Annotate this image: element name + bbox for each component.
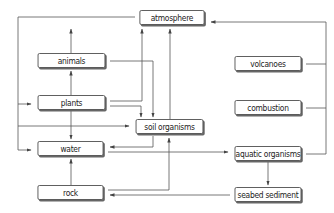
node-label: volcanoes (250, 58, 285, 69)
node-rock: rock (38, 185, 104, 200)
node-plants: plants (38, 95, 106, 110)
node-combustion: combustion (235, 100, 302, 115)
node-label: animals (58, 55, 86, 66)
node-label: soil organisms (144, 121, 194, 132)
node-water: water (38, 141, 104, 156)
carbon-cycle-diagram: atmosphere animals plants soil organisms… (0, 0, 334, 213)
node-aquatic-organisms: aquatic organisms (235, 146, 302, 161)
node-label: atmosphere (151, 12, 193, 23)
node-soil-organisms: soil organisms (136, 119, 204, 134)
node-animals: animals (38, 53, 106, 68)
node-atmosphere: atmosphere (139, 10, 204, 25)
node-label: rock (63, 187, 78, 198)
node-label: combustion (247, 102, 288, 113)
node-seabed-sediment: seabed sediment (235, 187, 302, 202)
node-label: water (60, 143, 80, 154)
node-volcanoes: volcanoes (235, 56, 302, 71)
node-label: plants (61, 97, 83, 108)
node-label: seabed sediment (238, 189, 299, 200)
node-label: aquatic organisms (236, 148, 301, 159)
